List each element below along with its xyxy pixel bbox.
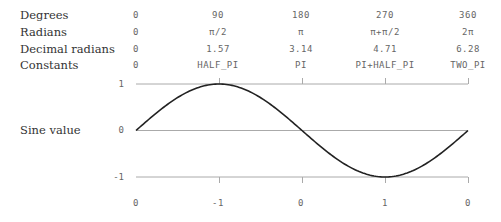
sine-chart — [0, 0, 501, 222]
